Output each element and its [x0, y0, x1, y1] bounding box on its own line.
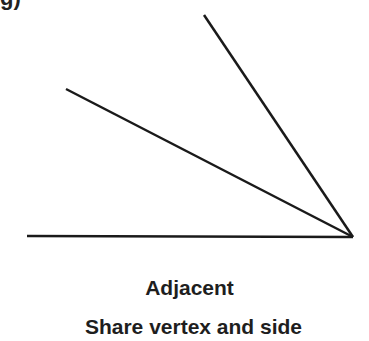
cut-off-heading: g) — [0, 0, 21, 11]
upper-ray — [204, 15, 353, 237]
middle-ray — [66, 89, 353, 237]
diagram-subtitle: Share vertex and side — [9, 315, 369, 339]
horizontal-ray — [27, 236, 353, 237]
adjacent-angles-diagram: g) Adjacent Share vertex and side — [0, 0, 369, 341]
diagram-title: Adjacent — [5, 276, 369, 300]
